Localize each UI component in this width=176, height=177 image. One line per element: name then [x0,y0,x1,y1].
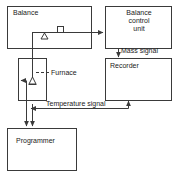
signal-label-temperature: Temperature signal [46,100,106,108]
counterweight-square [58,27,64,33]
balance-pivot-triangle [41,33,48,39]
block-programmer [8,129,77,171]
block-label-furnace: Furnace [51,69,77,77]
block-label-programmer: Programmer [16,137,55,145]
sample-crucible-symbol [29,77,36,84]
tga-block-diagram: Balance Balance control unit Recorder Fu… [0,0,176,177]
block-label-recorder: Recorder [110,62,139,70]
block-label-control-unit: Balance control unit [110,9,168,33]
block-label-balance: Balance [13,9,38,17]
signal-label-mass: Mass signal [121,47,158,55]
